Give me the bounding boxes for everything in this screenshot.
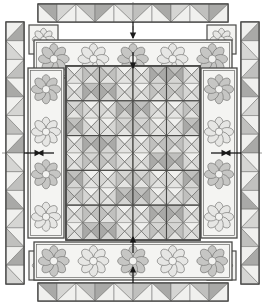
hst-unit: [241, 134, 259, 153]
qst-unit: [100, 118, 117, 135]
qst-unit: [133, 223, 150, 240]
flower-applique: [38, 246, 69, 277]
qst-unit: [116, 223, 133, 240]
qst-unit: [66, 66, 83, 83]
qst-unit: [167, 118, 184, 135]
qst-unit: [66, 83, 83, 100]
qst-unit: [66, 223, 83, 240]
left-sawtooth-border: [6, 22, 24, 284]
flower-applique: [204, 160, 233, 189]
qst-unit: [167, 205, 184, 222]
flower-center: [50, 55, 58, 63]
hst-unit: [76, 4, 95, 22]
qst-unit: [66, 153, 83, 170]
qst-unit: [116, 101, 133, 118]
qst-unit: [83, 101, 100, 118]
qst-unit: [116, 66, 133, 83]
hst-unit: [241, 22, 259, 41]
quilt-diagram-canvas: [0, 0, 265, 305]
flower-center: [42, 128, 49, 135]
qst-unit: [133, 170, 150, 187]
center-block: [167, 136, 201, 171]
hst-unit: [76, 283, 95, 301]
qst-unit: [150, 66, 167, 83]
qst-unit: [167, 66, 184, 83]
qst-unit: [116, 83, 133, 100]
qst-unit: [167, 223, 184, 240]
qst-unit: [183, 118, 200, 135]
qst-unit: [100, 223, 117, 240]
hst-unit: [241, 190, 259, 209]
qst-unit: [83, 136, 100, 153]
hst-unit: [209, 283, 228, 301]
hst-unit: [6, 228, 24, 247]
flower-applique: [204, 202, 233, 231]
hst-unit: [6, 78, 24, 97]
hst-unit: [6, 97, 24, 116]
flower-applique: [78, 246, 109, 277]
center-block: [133, 136, 167, 171]
qst-unit: [150, 205, 167, 222]
hst-unit: [171, 4, 190, 22]
qst-unit: [100, 136, 117, 153]
qst-unit: [116, 188, 133, 205]
qst-unit: [83, 66, 100, 83]
bottom-sawtooth-border: [38, 283, 228, 301]
center-block: [100, 66, 134, 101]
hst-unit: [241, 172, 259, 191]
hst-unit: [6, 134, 24, 153]
qst-unit: [183, 205, 200, 222]
qst-unit: [100, 83, 117, 100]
flower-applique: [31, 117, 60, 146]
qst-unit: [100, 205, 117, 222]
qst-unit: [83, 223, 100, 240]
center-block: [133, 101, 167, 136]
flower-center: [42, 213, 49, 220]
qst-unit: [183, 66, 200, 83]
qst-unit: [83, 83, 100, 100]
hst-unit: [241, 209, 259, 228]
qst-unit: [116, 136, 133, 153]
hst-unit: [6, 59, 24, 78]
center-medallion: [66, 66, 200, 240]
flower-center: [215, 171, 222, 178]
qst-unit: [100, 66, 117, 83]
hst-unit: [6, 22, 24, 41]
flower-center: [215, 213, 222, 220]
center-block: [100, 205, 134, 240]
hst-unit: [6, 265, 24, 284]
flower-center: [42, 171, 49, 178]
flower-center: [89, 257, 97, 265]
hst-unit: [190, 4, 209, 22]
qst-unit: [66, 205, 83, 222]
center-block: [167, 66, 201, 101]
qst-unit: [100, 153, 117, 170]
hst-unit: [241, 228, 259, 247]
hst-unit: [133, 283, 152, 301]
flower-center: [169, 55, 177, 63]
qst-unit: [83, 205, 100, 222]
hst-unit: [152, 4, 171, 22]
qst-unit: [167, 170, 184, 187]
qst-unit: [100, 170, 117, 187]
qst-unit: [116, 170, 133, 187]
flower-applique: [31, 160, 60, 189]
qst-unit: [83, 170, 100, 187]
qst-unit: [66, 170, 83, 187]
qst-unit: [100, 101, 117, 118]
hst-unit: [171, 283, 190, 301]
qst-unit: [183, 170, 200, 187]
qst-unit: [66, 101, 83, 118]
hst-unit: [38, 283, 57, 301]
qst-unit: [133, 118, 150, 135]
hst-unit: [241, 78, 259, 97]
hst-unit: [38, 4, 57, 22]
qst-unit: [83, 153, 100, 170]
center-block: [167, 170, 201, 205]
qst-unit: [150, 153, 167, 170]
qst-unit: [183, 188, 200, 205]
center-medallion-layer: [66, 66, 200, 240]
flower-center: [169, 257, 177, 265]
qst-unit: [167, 101, 184, 118]
center-block: [100, 136, 134, 171]
